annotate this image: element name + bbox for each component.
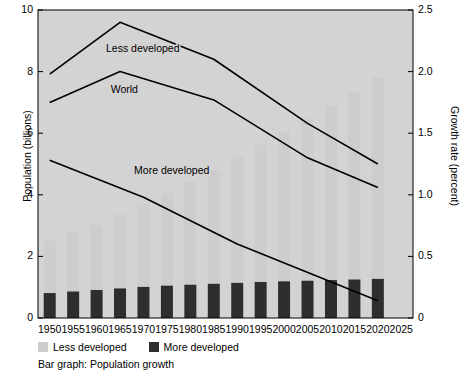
y-axis-left-tick: 0 <box>7 311 33 323</box>
bar-segment-less-developed <box>67 232 79 291</box>
bar-segment-more-developed <box>255 282 267 318</box>
y-axis-right-tick: 2.5 <box>418 3 448 15</box>
y-axis-right-tick: 0.5 <box>418 249 448 261</box>
y-axis-left-tick: 8 <box>7 65 33 77</box>
y-axis-left-title: Population (billions) <box>21 76 33 236</box>
bar-segment-less-developed <box>208 170 220 284</box>
population-growth-chart: Less developedLess developedWorldWorldMo… <box>0 0 467 377</box>
bar-segment-more-developed <box>302 281 314 318</box>
bar-segment-more-developed <box>91 290 103 318</box>
legend-label-more-developed: More developed <box>164 341 239 353</box>
bar-segment-less-developed <box>91 225 103 290</box>
y-axis-right-tick: 2.0 <box>418 65 448 77</box>
bar-segment-more-developed <box>348 280 360 319</box>
chart-caption: Bar graph: Population growth <box>38 358 174 370</box>
chart-canvas: Less developedLess developedWorldWorldMo… <box>0 0 467 377</box>
bar-segment-more-developed <box>278 281 290 318</box>
bar-segment-less-developed <box>114 215 126 289</box>
bar-segment-less-developed <box>44 240 56 293</box>
y-axis-left-tick: 10 <box>7 3 33 15</box>
bar-segment-less-developed <box>255 145 267 282</box>
y-axis-left-tick: 6 <box>7 126 33 138</box>
y-axis-left-tick: 4 <box>7 188 33 200</box>
bar-segment-more-developed <box>325 280 337 318</box>
line-label-more-developed: More developed <box>134 164 209 176</box>
y-axis-right-title: Growth rate (percent) <box>449 71 461 241</box>
y-axis-left-tick: 2 <box>7 249 33 261</box>
bar-segment-less-developed <box>372 78 384 279</box>
y-axis-right-tick: 1.0 <box>418 188 448 200</box>
bar-segment-less-developed <box>302 119 314 281</box>
bar-segment-more-developed <box>67 292 79 318</box>
bar-segment-less-developed <box>325 106 337 280</box>
bar-segment-more-developed <box>161 286 173 318</box>
bar-segment-more-developed <box>184 285 196 318</box>
bar-segment-more-developed <box>44 293 56 318</box>
y-axis-right-tick: 1.5 <box>418 126 448 138</box>
bar-segment-less-developed <box>231 157 243 283</box>
y-axis-right-tick: 0 <box>418 311 448 323</box>
bar-segment-less-developed <box>348 92 360 280</box>
bar-segment-less-developed <box>184 182 196 285</box>
x-axis-tick: 2025 <box>384 323 418 335</box>
bar-segment-more-developed <box>231 283 243 318</box>
legend-swatch-less-developed <box>38 342 48 352</box>
line-label-less-developed: Less developed <box>106 42 180 54</box>
bar-segment-less-developed <box>137 204 149 287</box>
bar-segment-more-developed <box>114 288 126 318</box>
line-label-world: World <box>111 83 138 95</box>
chart-legend: Less developed More developed <box>38 341 239 353</box>
legend-swatch-more-developed <box>149 342 159 352</box>
bar-segment-less-developed <box>278 132 290 282</box>
legend-label-less-developed: Less developed <box>53 341 127 353</box>
bar-segment-more-developed <box>208 284 220 318</box>
bar-segment-more-developed <box>137 287 149 318</box>
